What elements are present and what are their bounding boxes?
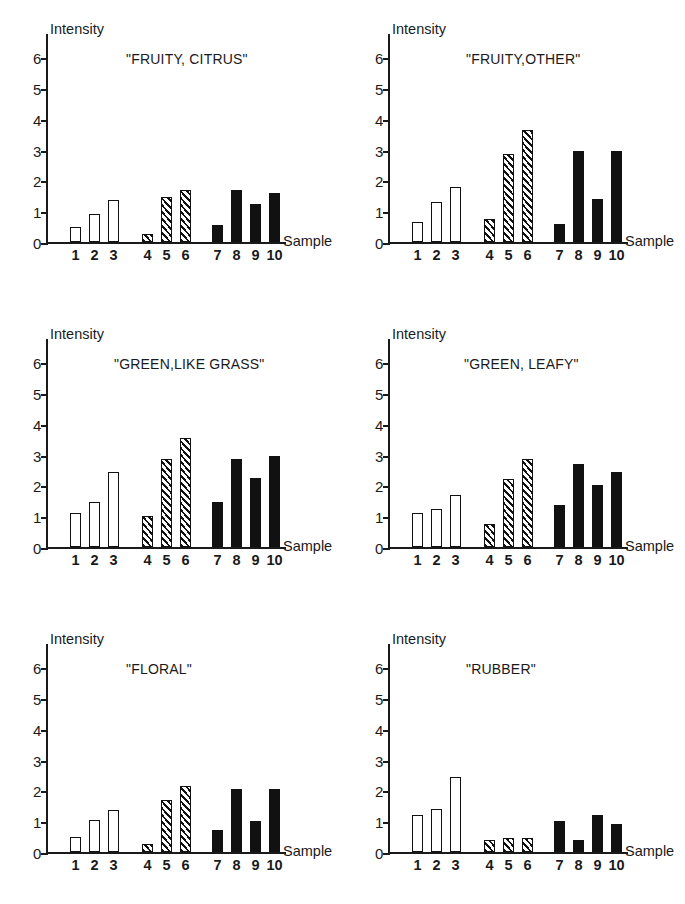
y-tick-label: 0 — [375, 846, 383, 861]
y-axis-title: Intensity — [50, 327, 104, 342]
y-axis-tick — [41, 517, 48, 519]
y-axis-tick — [383, 456, 390, 458]
bar-sample-8 — [231, 459, 242, 547]
x-tick-label: 3 — [109, 248, 117, 263]
bar-sample-6 — [522, 130, 533, 242]
y-tick-label: 2 — [33, 785, 41, 800]
y-axis-tick — [41, 243, 48, 245]
x-tick-label: 5 — [162, 248, 170, 263]
x-tick-label: 9 — [251, 858, 259, 873]
bar-sample-7 — [554, 821, 565, 852]
bar-sample-1 — [412, 513, 423, 547]
x-tick-label: 2 — [90, 858, 98, 873]
x-tick-label: 2 — [90, 553, 98, 568]
x-tick-label: 8 — [232, 858, 240, 873]
bar-sample-9 — [592, 485, 603, 547]
bar-sample-6 — [180, 786, 191, 852]
x-tick-label: 8 — [232, 553, 240, 568]
bar-sample-2 — [89, 820, 100, 852]
x-tick-label: 4 — [485, 248, 493, 263]
bar-sample-10 — [611, 472, 622, 547]
y-axis-title: Intensity — [50, 22, 104, 37]
y-axis-tick — [383, 89, 390, 91]
plot-area: 012345612345678910 — [388, 349, 620, 549]
y-tick-label: 4 — [33, 418, 41, 433]
chart-panel-1: IntensitySample"FRUITY, CITRUS"012345612… — [0, 0, 342, 305]
x-axis-line — [46, 242, 286, 244]
bar-sample-4 — [484, 219, 495, 242]
x-axis-line — [388, 242, 628, 244]
x-tick-label: 5 — [504, 553, 512, 568]
y-axis-tick — [383, 853, 390, 855]
x-tick-label: 7 — [555, 248, 563, 263]
y-tick-label: 4 — [33, 113, 41, 128]
bar-sample-1 — [412, 815, 423, 852]
x-tick-label: 10 — [266, 858, 282, 873]
y-axis-tick — [383, 699, 390, 701]
y-tick-label: 1 — [33, 815, 41, 830]
x-tick-label: 9 — [593, 858, 601, 873]
y-axis-tick — [383, 517, 390, 519]
bar-sample-4 — [142, 516, 153, 547]
y-axis-title: Intensity — [392, 632, 446, 647]
y-axis-tick — [383, 791, 390, 793]
x-tick-label: 5 — [162, 553, 170, 568]
bar-sample-3 — [108, 810, 119, 852]
x-tick-label: 7 — [213, 858, 221, 873]
y-axis-tick — [383, 486, 390, 488]
x-tick-label: 1 — [413, 553, 421, 568]
y-axis-tick — [383, 363, 390, 365]
x-tick-label: 2 — [90, 248, 98, 263]
y-tick-label: 3 — [33, 449, 41, 464]
y-tick-label: 1 — [33, 510, 41, 525]
bars-layer — [390, 652, 628, 852]
bars-layer — [390, 347, 628, 547]
y-axis-tick — [41, 699, 48, 701]
y-axis-tick — [41, 486, 48, 488]
y-tick-label: 6 — [33, 51, 41, 66]
bar-sample-9 — [250, 478, 261, 547]
y-axis-tick — [41, 212, 48, 214]
bar-sample-9 — [250, 821, 261, 852]
bar-sample-9 — [250, 204, 261, 243]
x-tick-label: 9 — [593, 553, 601, 568]
y-axis-tick — [41, 425, 48, 427]
y-axis-tick — [383, 181, 390, 183]
x-tick-label: 4 — [143, 248, 151, 263]
y-tick-label: 5 — [33, 387, 41, 402]
y-tick-label: 6 — [375, 51, 383, 66]
y-axis-tick — [41, 730, 48, 732]
bar-sample-4 — [142, 234, 153, 242]
bar-sample-4 — [484, 840, 495, 852]
bar-sample-1 — [70, 513, 81, 547]
y-axis-tick — [383, 730, 390, 732]
bar-sample-6 — [180, 190, 191, 242]
y-axis-tick — [383, 822, 390, 824]
y-axis-title: Intensity — [392, 327, 446, 342]
x-tick-label: 6 — [181, 248, 189, 263]
x-axis-title: Sample — [625, 234, 674, 249]
plot-area: 012345612345678910 — [46, 349, 278, 549]
x-axis-title: Sample — [283, 234, 332, 249]
y-tick-label: 0 — [33, 236, 41, 251]
bar-sample-1 — [70, 837, 81, 852]
x-tick-label: 5 — [162, 858, 170, 873]
y-axis-tick — [41, 151, 48, 153]
y-tick-label: 0 — [375, 236, 383, 251]
x-tick-label: 3 — [451, 248, 459, 263]
bar-sample-10 — [611, 824, 622, 852]
x-tick-label: 2 — [432, 858, 440, 873]
x-tick-label: 1 — [71, 248, 79, 263]
x-tick-label: 1 — [413, 248, 421, 263]
y-axis-tick — [383, 394, 390, 396]
y-tick-label: 0 — [375, 541, 383, 556]
bar-sample-7 — [554, 224, 565, 242]
bar-sample-10 — [269, 193, 280, 242]
y-tick-label: 6 — [33, 661, 41, 676]
x-tick-label: 5 — [504, 248, 512, 263]
x-tick-label: 1 — [413, 858, 421, 873]
x-tick-label: 7 — [213, 248, 221, 263]
bars-layer — [48, 652, 286, 852]
y-tick-label: 2 — [375, 785, 383, 800]
bar-sample-7 — [212, 502, 223, 547]
